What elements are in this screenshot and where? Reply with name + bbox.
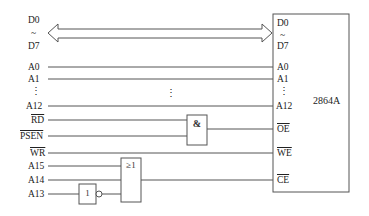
label-a14: A14 [28, 175, 44, 185]
chip-name: 2864A [313, 96, 340, 106]
label-a15: A15 [28, 161, 44, 171]
chip-pin-a0: A0 [277, 62, 289, 72]
label-vdots-left: ⋮ [31, 86, 41, 96]
or-gate-symbol: ≥1 [121, 160, 141, 170]
not-gate-symbol: 1 [79, 188, 96, 198]
chip-pin-ce: CE [277, 175, 289, 185]
label-rd: RD [31, 115, 44, 125]
label-a12-left: A12 [26, 101, 42, 111]
and-gate-symbol: & [189, 118, 205, 129]
label-psen: PSEN [20, 131, 43, 141]
label-d7-left: D7 [28, 41, 40, 51]
label-tilde-left: ~ [31, 28, 36, 38]
label-a1-left: A1 [28, 74, 40, 84]
chip-pin-tilde: ~ [280, 30, 285, 40]
circuit-diagram: D0 ~ D7 A0 A1 ⋮ A12 RD PSEN WR A15 A14 A… [0, 0, 369, 216]
data-bus-arrow [48, 24, 272, 42]
label-d0-left: D0 [28, 15, 40, 25]
wiring-layer [0, 0, 369, 216]
chip-pin-a1: A1 [277, 74, 289, 84]
chip-pin-d0: D0 [277, 18, 289, 28]
label-a0-left: A0 [28, 62, 40, 72]
chip-pin-vdots: ⋮ [279, 86, 289, 96]
chip-pin-d7: D7 [277, 41, 289, 51]
chip-pin-we: WE [277, 148, 292, 158]
chip-pin-oe: OE [277, 124, 290, 134]
chip-pin-a12: A12 [276, 101, 292, 111]
middle-vdots: ⋮ [166, 88, 176, 98]
not-bubble [96, 191, 102, 197]
label-wr: WR [30, 148, 45, 158]
label-a13: A13 [28, 189, 44, 199]
